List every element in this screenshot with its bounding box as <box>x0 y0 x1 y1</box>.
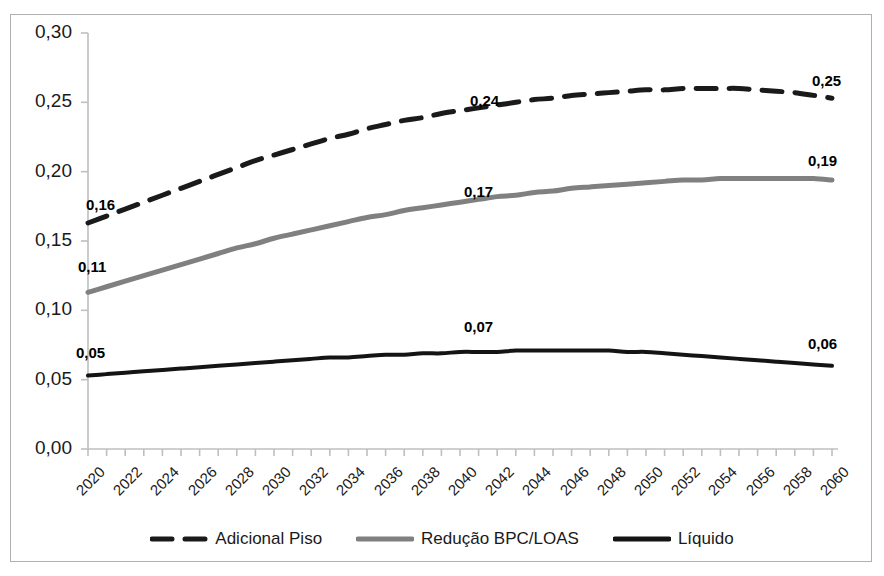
legend-item[interactable]: Redução BPC/LOAS <box>356 529 579 549</box>
y-axis-tick-label: 0,05 <box>12 368 72 390</box>
legend-swatch-dashed <box>150 532 208 546</box>
legend-label: Redução BPC/LOAS <box>421 529 579 549</box>
data-label: 0,24 <box>470 92 499 109</box>
axis-layer <box>88 33 838 449</box>
data-label: 0,16 <box>86 196 115 213</box>
y-axis-tick-label: 0,25 <box>12 90 72 112</box>
y-axis-tick-label: 0,20 <box>12 160 72 182</box>
data-label: 0,25 <box>812 72 841 89</box>
data-label: 0,07 <box>464 318 493 335</box>
series-layer <box>88 88 832 375</box>
tick-layer <box>81 33 832 456</box>
y-axis-tick-label: 0,30 <box>12 21 72 43</box>
data-label: 0,11 <box>78 258 106 275</box>
legend-item[interactable]: Líquido <box>613 529 734 549</box>
legend-label: Adicional Piso <box>215 529 322 549</box>
legend-swatch-solid <box>356 532 414 546</box>
data-label: 0,06 <box>808 335 837 352</box>
chart-page: 0,000,050,100,150,200,250,30 20202022202… <box>0 0 884 576</box>
data-label: 0,05 <box>76 344 105 361</box>
legend-item[interactable]: Adicional Piso <box>150 529 322 549</box>
data-label: 0,17 <box>464 183 493 200</box>
chart-legend: Adicional PisoRedução BPC/LOASLíquido <box>0 524 884 554</box>
series-line <box>88 350 832 375</box>
series-line <box>88 178 832 292</box>
data-label: 0,19 <box>808 152 837 169</box>
y-axis-tick-label: 0,10 <box>12 298 72 320</box>
y-axis-tick-label: 0,15 <box>12 229 72 251</box>
legend-swatch-solid <box>613 532 671 546</box>
legend-label: Líquido <box>678 529 734 549</box>
y-axis-tick-label: 0,00 <box>12 437 72 459</box>
